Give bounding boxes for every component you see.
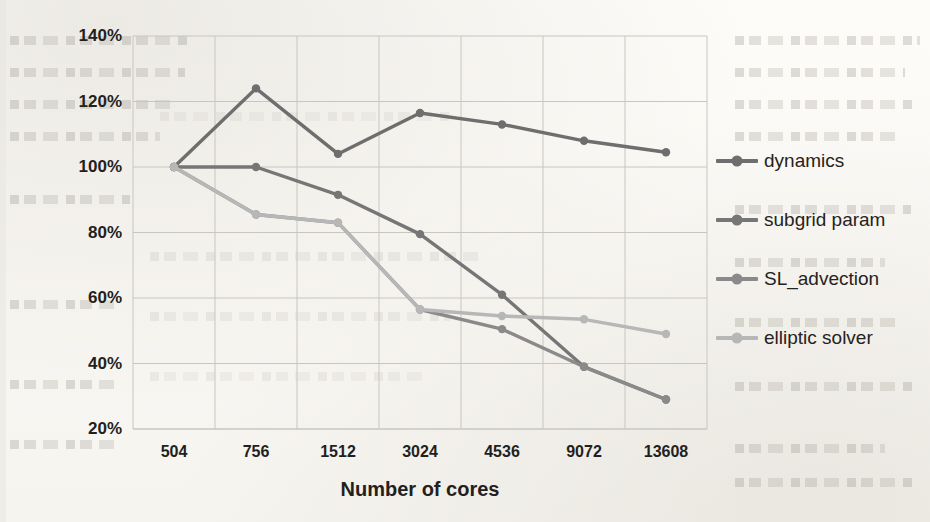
y-tick-label: 40%	[50, 354, 122, 374]
series-layer	[170, 84, 670, 404]
series-elliptic-solver	[170, 163, 670, 338]
legend-item-subgrid-param[interactable]: subgrid param	[716, 209, 885, 231]
legend-marker-icon	[716, 159, 758, 163]
legend-item-sl-advection[interactable]: SL_advection	[716, 268, 885, 290]
legend-marker-icon	[716, 336, 758, 340]
y-tick-label: 120%	[50, 92, 122, 112]
y-tick-label: 60%	[50, 288, 122, 308]
x-tick-label: 1512	[320, 443, 356, 461]
legend-label: elliptic solver	[764, 327, 873, 349]
parallel-efficiency-chart: 140%120%100%80%60%40%20% 504756151230244…	[0, 0, 930, 522]
x-tick-label: 13608	[644, 443, 689, 461]
legend-marker-icon	[716, 218, 758, 222]
y-axis-tick-labels: 140%120%100%80%60%40%20%	[44, 0, 122, 522]
x-tick-label: 3024	[402, 443, 438, 461]
x-tick-label: 4536	[484, 443, 520, 461]
series-sl-advection	[170, 163, 670, 404]
y-tick-label: 20%	[50, 419, 122, 439]
y-tick-label: 100%	[50, 157, 122, 177]
legend-label: dynamics	[764, 150, 844, 172]
y-tick-label: 80%	[50, 223, 122, 243]
legend-label: subgrid param	[764, 209, 885, 231]
legend-item-elliptic-solver[interactable]: elliptic solver	[716, 327, 885, 349]
legend-item-dynamics[interactable]: dynamics	[716, 150, 885, 172]
x-axis-title: Number of cores	[133, 478, 707, 501]
x-tick-label: 504	[161, 443, 188, 461]
legend-label: SL_advection	[764, 268, 879, 290]
y-tick-label: 140%	[50, 26, 122, 46]
x-tick-label: 756	[243, 443, 270, 461]
legend-marker-icon	[716, 277, 758, 281]
y-axis-title: Parallel efficiency	[0, 0, 28, 30]
chart-legend: dynamicssubgrid paramSL_advectionellipti…	[716, 150, 885, 349]
series-subgrid-param	[170, 163, 670, 404]
x-tick-label: 9072	[566, 443, 602, 461]
series-dynamics	[170, 84, 670, 171]
